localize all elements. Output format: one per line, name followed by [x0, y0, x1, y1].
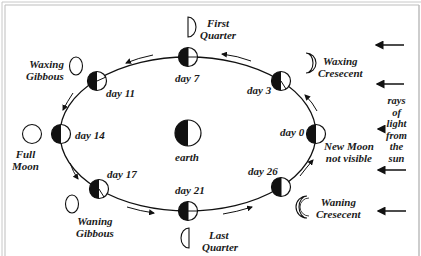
phase-text-line: Quarter — [202, 241, 238, 253]
sun-rays-label: rays of light from the sun — [386, 95, 407, 164]
moon-day-3 — [272, 72, 291, 91]
phase-label-waxing-gibbous: Waxing Gibbous — [26, 58, 64, 82]
day-label-3: day 3 — [247, 84, 271, 96]
phase-label-last-quarter: Last Quarter — [202, 229, 238, 253]
sun-label-line: rays — [386, 95, 407, 107]
moon-day-21 — [179, 202, 198, 221]
moon-day-0 — [307, 125, 326, 144]
moon-day-14 — [52, 125, 71, 144]
day-label-7: day 7 — [175, 72, 199, 84]
moon-day-26 — [272, 178, 291, 197]
phase-text-line: Moon — [12, 160, 39, 172]
phase-icon-waxing-gibbous — [70, 57, 83, 75]
day-label-17: day 17 — [107, 168, 137, 180]
sun-label-line: of — [386, 107, 407, 119]
phase-text-line: Full — [12, 148, 39, 160]
phase-icon-last-quarter — [181, 228, 189, 248]
phase-text-line: Waxing — [26, 58, 64, 70]
phase-label-waxing-crescent: Waxing Cresecent — [318, 55, 363, 79]
day-label-14: day 14 — [75, 129, 105, 141]
phase-text-line: Waxing — [318, 55, 363, 67]
phase-text-line: Gibbous — [76, 227, 114, 239]
moon-day-11 — [88, 72, 107, 91]
phase-label-first-quarter: First Quarter — [200, 17, 236, 41]
day-label-26: day 26 — [248, 165, 278, 177]
phase-icon-waxing-crescent — [306, 53, 316, 73]
phase-text-line: Quarter — [200, 29, 236, 41]
phase-icon-waning-gibbous — [66, 195, 79, 213]
phase-text-line: Cresecent — [316, 208, 361, 220]
phase-label-waning-gibbous: Waning Gibbous — [76, 215, 114, 239]
moon-day-7 — [179, 48, 198, 67]
phase-text-line: First — [200, 17, 236, 29]
day-label-0: day 0 — [280, 126, 304, 138]
phase-text-line: Waning — [316, 196, 361, 208]
phase-icon-waning-crescent — [296, 196, 309, 218]
moon-day-17 — [90, 180, 109, 199]
phase-icon-full-moon — [23, 125, 42, 144]
day-label-21: day 21 — [175, 184, 205, 196]
earth-icon — [175, 120, 201, 146]
phase-text-line: Cresecent — [318, 67, 363, 79]
sun-label-line: sun — [386, 153, 407, 165]
sun-label-line: from — [386, 130, 407, 142]
day-label-11: day 11 — [106, 87, 135, 99]
phase-icon-first-quarter — [188, 17, 196, 37]
phase-label-new-moon: New Moon not visible — [324, 140, 374, 164]
phase-text-line: Waning — [76, 215, 114, 227]
phase-text-line: Last — [202, 229, 238, 241]
earth-label: earth — [175, 151, 199, 163]
sun-label-line: the — [386, 141, 407, 153]
phase-label-waning-crescent: Waning Cresecent — [316, 196, 361, 220]
phase-text-line: not visible — [324, 152, 374, 164]
phase-label-full-moon: Full Moon — [12, 148, 39, 172]
sun-label-line: light — [386, 118, 407, 130]
phase-text-line: New Moon — [324, 140, 374, 152]
phase-text-line: Gibbous — [26, 70, 64, 82]
